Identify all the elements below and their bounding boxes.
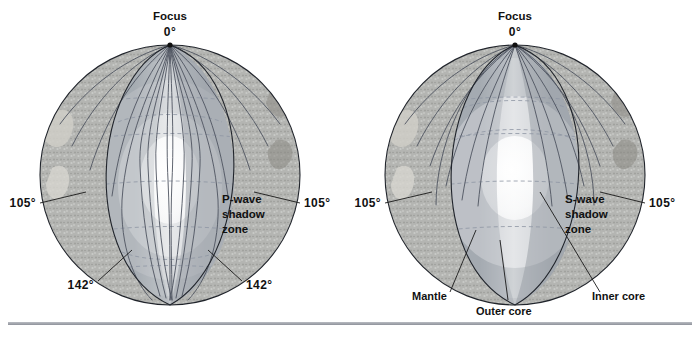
right-inner-core-label: Inner core — [592, 290, 645, 302]
bottom-divider — [8, 322, 692, 325]
right-globe-s-wave: Focus 0° 105° 105° S-wave shadow zone Ma… — [355, 10, 676, 317]
left-angle-142-right: 142° — [246, 278, 272, 292]
left-focus-angle: 0° — [164, 25, 176, 39]
right-angle-105-right: 105° — [649, 196, 675, 210]
right-shadow-zone-line2: shadow — [565, 208, 608, 220]
left-angle-105-left: 105° — [10, 196, 36, 210]
left-shadow-zone-line1: P-wave — [222, 193, 262, 205]
left-focus-label: Focus — [153, 10, 187, 22]
right-focus-label: Focus — [498, 10, 532, 22]
right-angle-105-left: 105° — [355, 196, 381, 210]
right-shadow-zone-line1: S-wave — [565, 193, 605, 205]
right-focus-point — [512, 42, 517, 47]
left-globe-p-wave: Focus 0° 105° 105° 142° 142° P-wave shad… — [10, 10, 331, 310]
seismic-shadow-zone-figure: Focus 0° 105° 105° 142° 142° P-wave shad… — [0, 0, 700, 337]
right-focus-angle: 0° — [509, 25, 521, 39]
left-focus-point — [167, 42, 172, 47]
right-mantle-label: Mantle — [412, 290, 447, 302]
left-shadow-zone-line2: shadow — [222, 208, 265, 220]
left-angle-142-left: 142° — [68, 278, 94, 292]
left-angle-105-right: 105° — [304, 196, 330, 210]
right-shadow-zone-line3: zone — [565, 223, 591, 235]
left-shadow-zone-line3: zone — [222, 223, 248, 235]
right-outer-core-label: Outer core — [476, 305, 532, 317]
